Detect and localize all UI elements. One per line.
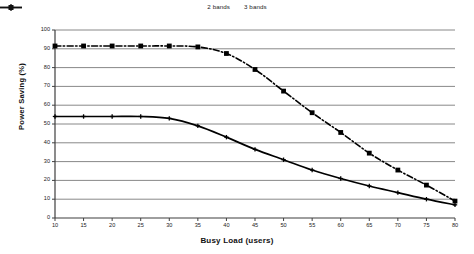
x-tick-label: 80 bbox=[443, 223, 467, 229]
x-axis-title: Busy Load (users) bbox=[0, 236, 474, 245]
x-tick-label: 15 bbox=[72, 223, 96, 229]
x-tick-label: 65 bbox=[357, 223, 381, 229]
x-tick-label: 75 bbox=[414, 223, 438, 229]
y-axis-title: Power Saving (%) bbox=[17, 32, 26, 162]
x-tick-label: 55 bbox=[300, 223, 324, 229]
x-tick-label: 50 bbox=[272, 223, 296, 229]
x-axis-tick-labels: 101520253035404550556065707580 bbox=[0, 0, 474, 254]
x-tick-label: 20 bbox=[100, 223, 124, 229]
x-tick-label: 60 bbox=[329, 223, 353, 229]
x-tick-label: 40 bbox=[214, 223, 238, 229]
x-tick-label: 30 bbox=[157, 223, 181, 229]
x-tick-label: 25 bbox=[129, 223, 153, 229]
x-tick-label: 10 bbox=[43, 223, 67, 229]
x-tick-label: 45 bbox=[243, 223, 267, 229]
power-saving-line-chart: 2 bands 3 bands 0102030405060708090100 1… bbox=[0, 0, 474, 254]
x-tick-label: 70 bbox=[386, 223, 410, 229]
x-tick-label: 35 bbox=[186, 223, 210, 229]
